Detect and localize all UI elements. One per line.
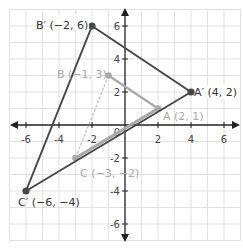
y-tick-label: 4 <box>114 54 120 65</box>
x-tick-label: 2 <box>155 134 161 145</box>
y-tick-label: -6 <box>110 219 120 230</box>
y-tick-label: -2 <box>110 153 120 164</box>
point-labels: B′ (−2, 6) A′ (4, 2) C′ (−6, −4) B (−1, … <box>18 15 240 209</box>
x-axis-left-arrow-icon <box>10 121 18 129</box>
y-tick-label: 6 <box>114 21 120 32</box>
label-b: B (−1, 3) <box>57 68 107 81</box>
x-tick-labels: -6 -4 -2 2 4 6 <box>21 134 227 145</box>
point-b-prime <box>88 22 95 29</box>
label-c: C (−3, −2) <box>80 167 139 180</box>
x-tick-label: -4 <box>54 134 64 145</box>
label-c-prime: C′ (−6, −4) <box>18 196 80 209</box>
x-tick-label: -6 <box>21 134 31 145</box>
x-tick-label: -2 <box>87 134 97 145</box>
x-axis-right-arrow-icon <box>232 121 240 129</box>
x-tick-label: 4 <box>188 134 194 145</box>
label-a-prime: A′ (4, 2) <box>194 86 237 99</box>
y-tick-label: 2 <box>114 87 120 98</box>
label-a: A (2, 1) <box>163 110 204 123</box>
label-b-prime: B′ (−2, 6) <box>36 19 88 32</box>
y-tick-label: -4 <box>110 186 120 197</box>
x-tick-label: 6 <box>221 134 227 145</box>
point-c-prime <box>22 187 29 194</box>
coordinate-plane: -6 -4 -2 2 4 6 6 4 2 -2 -4 -6 0 B′ (−2, … <box>0 0 243 250</box>
